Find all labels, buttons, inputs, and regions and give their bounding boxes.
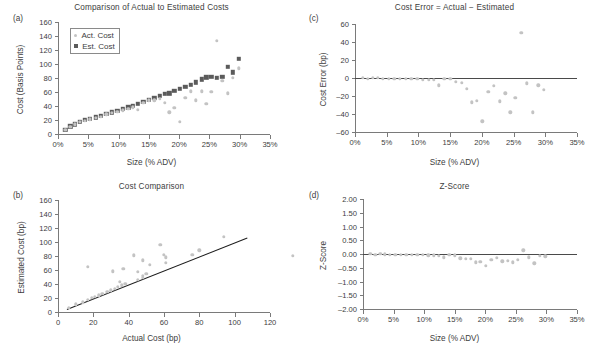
panel-d-data-point — [416, 253, 419, 256]
panel-b-x-tick — [199, 313, 200, 317]
panel-d-x-tick-label: 30% — [539, 315, 554, 324]
panel-d-data-point — [383, 253, 386, 256]
panel-a-data-point — [178, 120, 181, 123]
panel-b-x-tick — [93, 313, 94, 317]
panel-d-data-point — [544, 254, 547, 257]
panel-c-data-point — [376, 76, 379, 79]
panel-a-data-point — [220, 79, 223, 82]
panel-c-x-tick — [482, 133, 483, 137]
panel-b-x-tick — [129, 313, 130, 317]
panel-a-data-point — [183, 96, 186, 99]
panel-d-data-point — [448, 253, 451, 256]
panel-a-data-point — [209, 74, 213, 78]
panel-a-data-point — [231, 76, 234, 79]
panel-a-y-tick — [55, 120, 59, 121]
panel-a-data-point — [136, 108, 139, 111]
figure-caption-remnant — [28, 346, 30, 353]
panel-a-y-tick-label: 80 — [12, 74, 52, 83]
panel-b-data-point — [164, 256, 167, 259]
panel-d-data-point — [469, 257, 472, 260]
panel-b-data-point — [159, 243, 162, 246]
panel-b-data-point — [111, 270, 114, 273]
panel-d-y-tick — [360, 213, 364, 214]
panel-d-x-tick — [363, 310, 364, 314]
panel-c-y-tick-label: 0 — [309, 74, 349, 83]
panel-d-data-point — [374, 253, 377, 256]
panel-a-legend: Act. CostEst. Cost — [70, 28, 120, 54]
panel-a-x-tick — [209, 135, 210, 139]
panel-a-x-tick — [240, 135, 241, 139]
panel-b-x-tick-label: 60 — [160, 318, 168, 327]
panel-d-data-point — [437, 254, 440, 257]
panel-d-x-axis — [363, 309, 577, 310]
panel-d-x-tick — [546, 310, 547, 314]
panel-c-data-point — [454, 80, 457, 83]
panel-c-y-tick — [352, 24, 356, 25]
panel-a-data-point — [226, 92, 229, 95]
panel-a-data-point — [205, 102, 208, 105]
panel-d-data-point — [490, 258, 493, 261]
panel-b-data-point — [164, 261, 167, 264]
panel-b-x-tick — [164, 313, 165, 317]
panel-c-x-tick-label: 25% — [506, 138, 521, 147]
panel-c-data-point — [415, 77, 418, 80]
panel-a-plot-area: 0204060801001201401600%5%10%15%20%25%30%… — [58, 22, 270, 134]
panel-a-data-point — [204, 75, 208, 79]
panel-d-y-tick-label: –2.00 — [317, 305, 357, 314]
panel-c-data-point — [531, 110, 534, 113]
panel-c-y-tick-label: 40 — [309, 38, 349, 47]
panel-a-data-point — [131, 106, 134, 109]
panel-a-data-point — [172, 88, 176, 92]
panel-a-y-tick — [55, 92, 59, 93]
panel-a-data-point — [188, 83, 192, 87]
panel-a-x-tick — [119, 135, 120, 139]
panel-d-x-tick-label: 20% — [478, 315, 493, 324]
panel-b-reference-line — [67, 237, 248, 310]
panel-d-x-tick — [516, 310, 517, 314]
panel-a-x-tick — [179, 135, 180, 139]
panel-c-x-tick — [355, 133, 356, 137]
panel-c-x-tick-label: 0% — [350, 138, 361, 147]
panel-d-data-point — [474, 261, 477, 264]
panel-a-data-point — [215, 39, 218, 42]
panel-c-y-tick-label: 60 — [309, 20, 349, 29]
panel-c-data-point — [498, 100, 501, 103]
panel-b-y-tick-label: 20 — [12, 294, 52, 303]
panel-d-data-point — [378, 252, 381, 255]
panel-a-data-point — [153, 99, 156, 102]
panel-a: (a) Comparison of Actual to Estimated Co… — [0, 0, 303, 179]
panel-b-y-tick — [55, 270, 59, 271]
panel-c-data-point — [525, 82, 528, 85]
panel-b-y-tick-label: 0 — [12, 308, 52, 317]
panel-c-x-tick — [418, 133, 419, 137]
panel-d-data-point — [388, 253, 391, 256]
panel-a-xlabel: Size (% ADV) — [0, 158, 303, 167]
panel-d-y-tick-label: 1.50 — [317, 208, 357, 217]
panel-b-data-point — [291, 254, 294, 257]
panel-b-data-point — [198, 249, 201, 252]
panel-a-y-tick — [55, 22, 59, 23]
panel-a-y-tick-label: 20 — [12, 116, 52, 125]
panel-a-data-point — [121, 108, 124, 111]
panel-d-y-tick-label: 2.00 — [317, 195, 357, 204]
panel-a-x-tick — [270, 135, 271, 139]
panel-d-data-point — [405, 253, 408, 256]
panel-d-data-point — [516, 258, 519, 261]
panel-b-xlabel: Actual Cost (bp) — [0, 334, 303, 343]
panel-c-data-point — [514, 96, 517, 99]
panel-a-data-point — [127, 107, 130, 110]
panel-c-data-point — [437, 83, 440, 86]
panel-d-y-tick — [360, 295, 364, 296]
panel-c-x-tick-label: 10% — [411, 138, 426, 147]
panel-a-y-tick — [55, 78, 59, 79]
panel-d-x-tick — [485, 310, 486, 314]
panel-a-legend-item: Act. Cost — [74, 31, 115, 40]
panel-b-data-point — [141, 258, 144, 261]
panel-d-y-tick — [360, 199, 364, 200]
panel-b-x-tick-label: 20 — [89, 318, 97, 327]
panel-d-y-tick-label: –1.00 — [317, 277, 357, 286]
panel-d-data-point — [394, 253, 397, 256]
panel-d-data-point — [501, 260, 504, 263]
panel-d-x-tick-label: 10% — [417, 315, 432, 324]
panel-d-x-tick-label: 35% — [569, 315, 584, 324]
